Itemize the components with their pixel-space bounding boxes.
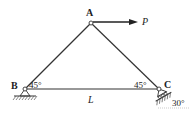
angle-b-label: 45° [29,80,42,90]
load-label-p: P [141,16,148,27]
label-a: A [86,7,94,18]
span-label-l: L [87,94,94,105]
member-ac [91,23,159,89]
support-angle-label: 30° [172,98,185,108]
truss-diagram: A B C P L 45° 45° 30° [0,0,196,114]
load-arrow-icon [93,19,138,25]
joint-c-icon [157,87,161,91]
joint-a-icon [89,21,93,25]
angle-c-label: 45° [134,80,147,90]
label-c: C [164,79,171,90]
label-b: B [11,80,18,91]
joint-b-icon [23,87,27,91]
